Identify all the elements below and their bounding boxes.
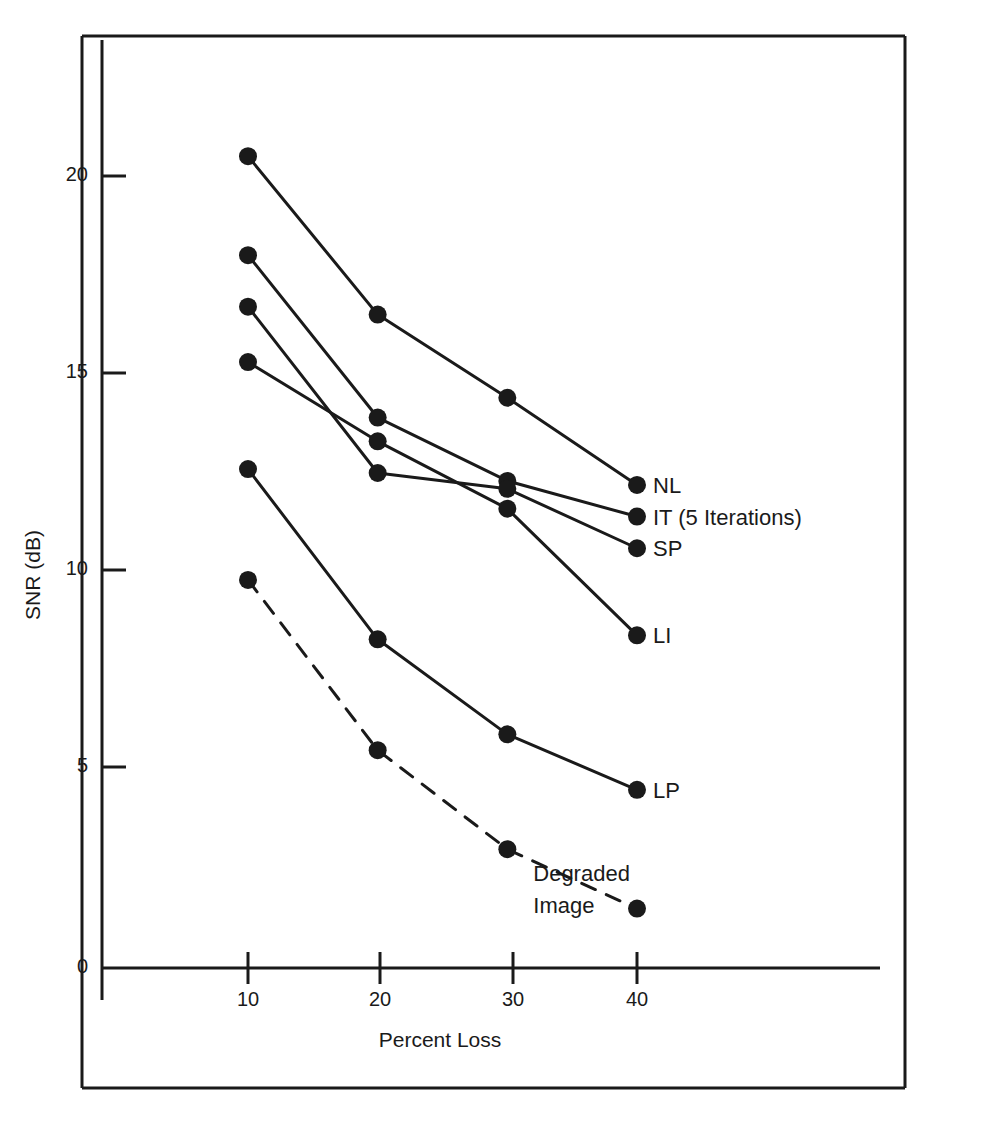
x-tick-label-20: 20 [369, 988, 391, 1010]
data-point-marker [498, 389, 516, 407]
series-it [239, 246, 646, 525]
x-axis [102, 952, 880, 984]
data-point-marker [628, 508, 646, 526]
annotation-degraded-image-line-1: Degraded [533, 861, 630, 886]
x-axis-tick-labels: 10 20 30 40 [237, 988, 648, 1010]
data-point-marker [239, 460, 257, 478]
data-point-marker [498, 500, 516, 518]
series-sp [239, 298, 646, 558]
data-point-marker [628, 900, 646, 918]
series-line [248, 469, 637, 790]
data-point-marker [369, 409, 387, 427]
series-lp [239, 460, 646, 799]
data-point-marker [239, 147, 257, 165]
y-axis-tick-labels: 20 15 10 5 0 [66, 163, 88, 977]
y-tick-label-5: 5 [77, 754, 88, 776]
data-point-marker [498, 480, 516, 498]
y-tick-label-20: 20 [66, 163, 88, 185]
data-point-marker [628, 539, 646, 557]
data-point-marker [369, 306, 387, 324]
x-tick-label-30: 30 [502, 988, 524, 1010]
y-tick-label-10: 10 [66, 557, 88, 579]
data-point-marker [498, 725, 516, 743]
data-point-marker [369, 432, 387, 450]
y-tick-label-15: 15 [66, 360, 88, 382]
series-line [248, 362, 637, 635]
series-label-it: IT (5 Iterations) [653, 505, 802, 530]
y-tick-label-0: 0 [77, 955, 88, 977]
series-label-sp: SP [653, 536, 682, 561]
series-label-li: LI [653, 623, 671, 648]
figure-frame [82, 36, 905, 1088]
data-point-marker [239, 298, 257, 316]
data-point-marker [369, 741, 387, 759]
series-label-lp: LP [653, 778, 680, 803]
x-tick-label-10: 10 [237, 988, 259, 1010]
x-tick-label-40: 40 [626, 988, 648, 1010]
data-point-marker [628, 781, 646, 799]
y-axis-title: SNR (dB) [21, 530, 44, 620]
y-axis [102, 40, 126, 1000]
series-line [248, 580, 637, 909]
data-point-marker [239, 246, 257, 264]
series-li [239, 353, 646, 644]
series-line [248, 156, 637, 485]
data-point-marker [239, 353, 257, 371]
series-line [248, 307, 637, 549]
data-point-marker [369, 630, 387, 648]
figure-container: 20 15 10 5 0 SNR (dB) 10 20 30 40 Percen… [0, 0, 1007, 1147]
data-point-marker [498, 840, 516, 858]
data-point-marker [628, 476, 646, 494]
series-layer [239, 147, 646, 917]
data-point-marker [369, 464, 387, 482]
data-point-marker [628, 626, 646, 644]
series-label-nl: NL [653, 473, 681, 498]
x-axis-title: Percent Loss [379, 1028, 502, 1051]
snr-vs-percent-loss-chart: 20 15 10 5 0 SNR (dB) 10 20 30 40 Percen… [0, 0, 1007, 1147]
annotation-degraded-image-line-2: Image [533, 893, 594, 918]
data-point-marker [239, 571, 257, 589]
series-line [248, 255, 637, 516]
annotation-layer: DegradedImage [533, 861, 630, 918]
series-label-layer: NLIT (5 Iterations)SPLILP [653, 473, 802, 803]
